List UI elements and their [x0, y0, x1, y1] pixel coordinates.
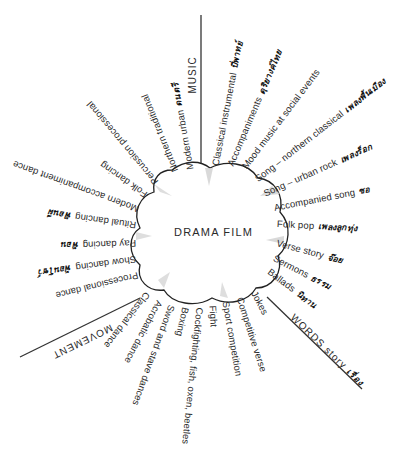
drama-film-diagram: DRAMA FILM MUSIC WORDS storyเรื่อง MOVEM…	[0, 0, 396, 465]
center-title: DRAMA FILM	[174, 226, 253, 238]
thai-text: ซอ	[358, 184, 371, 196]
label-text: Fight	[208, 305, 220, 327]
label-fight: Fight	[208, 305, 220, 327]
thai-text: ฟ้อนผี	[48, 208, 72, 221]
label-text: Folk pop	[277, 218, 315, 231]
thai-text: ฟ้อน	[61, 240, 79, 251]
label-text: Pay dancing	[82, 238, 136, 251]
music-label-text: MUSIC	[187, 56, 198, 93]
thai-text: เพลงลูกทุ่ง	[318, 221, 357, 233]
section-music-label: MUSIC	[187, 56, 198, 93]
